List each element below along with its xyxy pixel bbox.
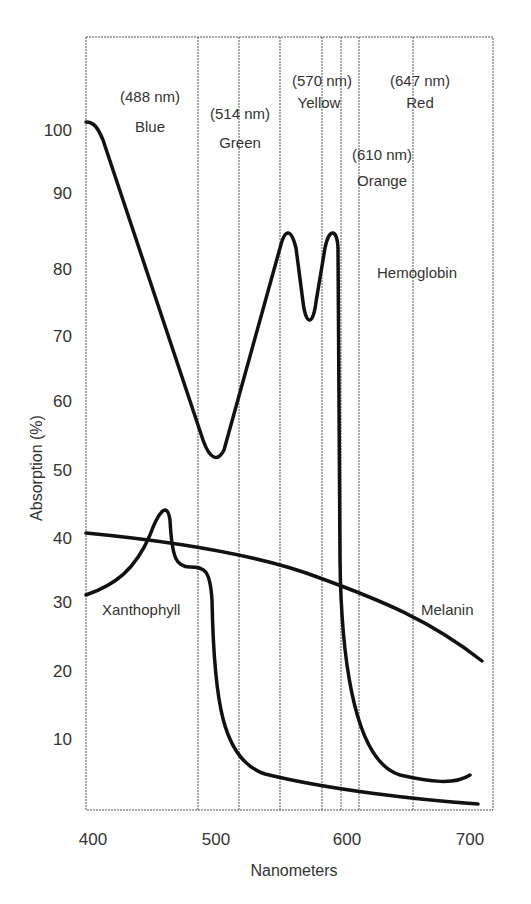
x-tick: 400 <box>79 830 107 849</box>
melanin-label: Melanin <box>421 601 474 618</box>
y-tick: 100 <box>44 121 72 140</box>
hemoglobin-label: Hemoglobin <box>377 264 457 281</box>
y-axis-label: Absorption (%) <box>28 415 45 521</box>
band-blue-nm: (488 nm) <box>120 88 180 105</box>
hemoglobin-curve <box>86 122 470 781</box>
y-tick: 40 <box>53 529 72 548</box>
band-green: Green <box>219 134 261 151</box>
band-orange: Orange <box>357 172 407 189</box>
melanin-curve <box>86 533 482 661</box>
y-tick: 90 <box>53 184 72 203</box>
x-tick: 700 <box>456 830 484 849</box>
plot-frame <box>86 37 493 810</box>
x-tick: 500 <box>202 830 230 849</box>
band-yellow: Yellow <box>298 94 341 111</box>
band-red: Red <box>406 94 434 111</box>
y-tick: 30 <box>53 593 72 612</box>
xanthophyll-label: Xanthophyll <box>102 601 180 618</box>
band-orange-nm: (610 nm) <box>352 146 412 163</box>
band-green-nm: (514 nm) <box>210 105 270 122</box>
band-blue: Blue <box>135 118 165 135</box>
y-tick: 50 <box>53 461 72 480</box>
y-tick: 70 <box>53 327 72 346</box>
y-axis-ticks: 100 90 80 70 60 50 40 30 20 10 <box>44 121 72 749</box>
y-tick: 10 <box>53 730 72 749</box>
y-tick: 20 <box>53 662 72 681</box>
xanthophyll-curve <box>86 510 478 804</box>
band-labels: (488 nm) Blue (514 nm) Green (570 nm) Ye… <box>120 72 450 189</box>
x-axis-ticks: 400 500 600 700 <box>79 830 484 849</box>
band-yellow-nm: (570 nm) <box>292 72 352 89</box>
absorption-chart: 100 90 80 70 60 50 40 30 20 10 400 500 6… <box>0 0 531 904</box>
x-tick: 600 <box>333 830 361 849</box>
x-axis-label: Nanometers <box>250 862 337 879</box>
band-red-nm: (647 nm) <box>390 72 450 89</box>
y-tick: 80 <box>53 260 72 279</box>
y-tick: 60 <box>53 392 72 411</box>
